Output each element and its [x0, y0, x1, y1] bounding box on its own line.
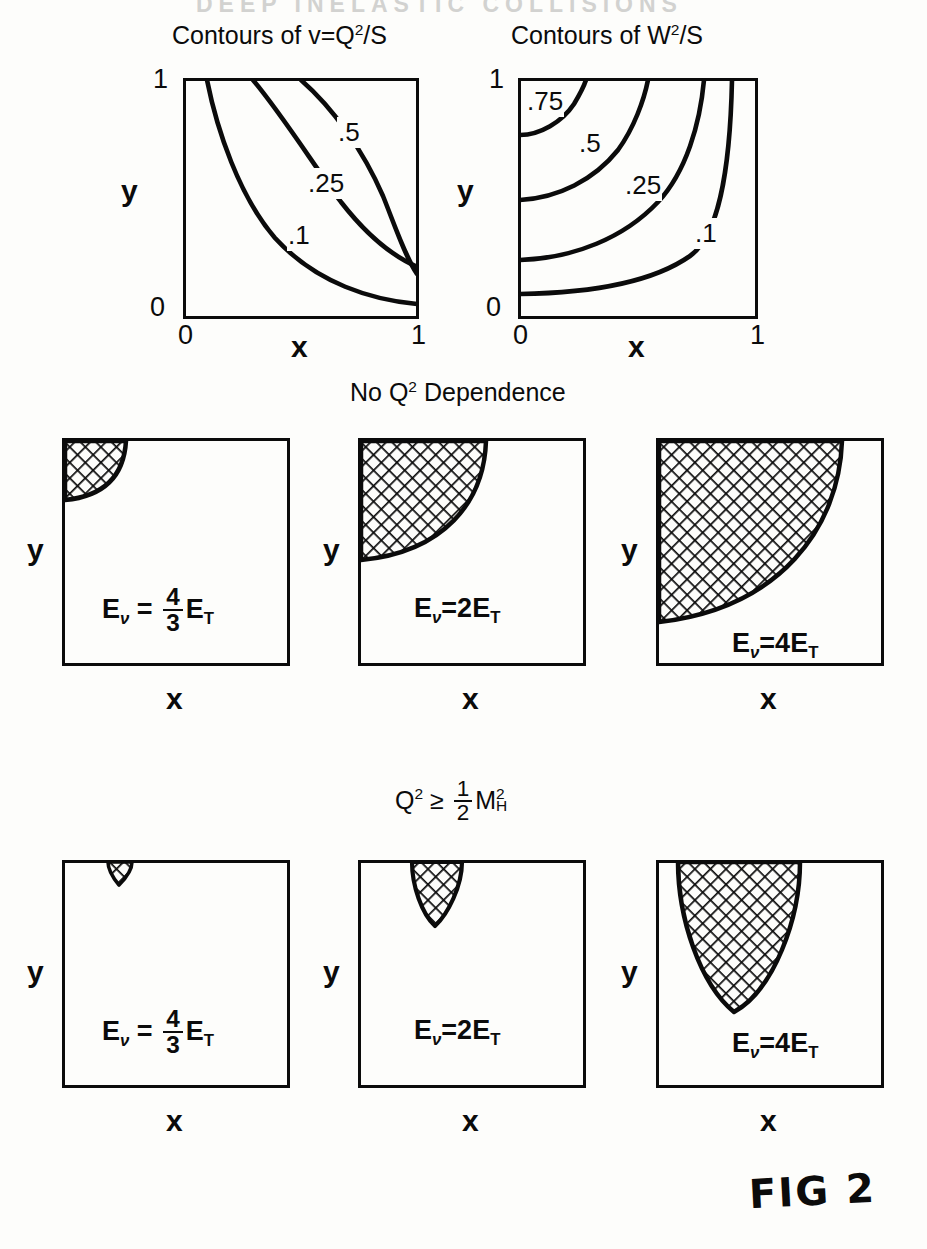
row3-header-relation: ≥ — [430, 786, 444, 814]
eq-ET: E — [472, 593, 490, 623]
y-tick-one-panel1: 1 — [153, 64, 168, 95]
eq-fraction: 43 — [163, 585, 183, 635]
eq-coef: 2 — [457, 593, 472, 623]
contour-label-w2s-0.25: .25 — [624, 170, 662, 201]
eq-fraction: 43 — [163, 1007, 183, 1057]
row3-header: Q2 ≥ 12M2H — [395, 779, 507, 825]
energy-equation-r3-c3: Eν=4ET — [732, 1028, 818, 1063]
panel-title-q2s-suffix: /S — [363, 21, 387, 49]
row3-header-fraction: 12 — [454, 778, 473, 824]
contour-label-w2s-0.5: .5 — [578, 128, 602, 159]
eq-T: T — [204, 1031, 214, 1050]
eq-T: T — [808, 643, 818, 662]
contour-plot-w2s: .75 .5 .25 .1 — [518, 78, 758, 319]
row2-header-sup: 2 — [408, 378, 417, 395]
contour-label-q2s-0.1: .1 — [287, 220, 311, 251]
eq-T: T — [490, 1030, 500, 1049]
panel-title-q2s-prefix: Contours of v=Q — [172, 21, 355, 49]
region-plot-r2-c3: Eν=4ET — [656, 438, 884, 666]
x-axis-label-r2-c2: x — [462, 682, 479, 716]
y-axis-label-panel2: y — [457, 174, 474, 208]
x-axis-label-r2-c1: x — [166, 682, 183, 716]
y-tick-zero-panel2: 0 — [486, 292, 501, 323]
eq-T: T — [808, 1043, 818, 1062]
contour-label-w2s-0.1: .1 — [694, 218, 718, 249]
eq-E: E — [732, 1028, 750, 1058]
row3-frac-den: 2 — [454, 802, 473, 824]
figure-caption-handwritten: FIG 2 — [748, 1165, 877, 1218]
x-tick-one-panel1: 1 — [411, 320, 426, 351]
page-title-partial: DEEP INELASTIC COLLISIONS — [196, 0, 683, 18]
y-axis-label-r2-c1: y — [27, 533, 44, 567]
eq-E: E — [102, 1016, 120, 1046]
x-tick-zero-panel2: 0 — [513, 320, 528, 351]
row2-header: No Q2 Dependence — [350, 378, 566, 407]
eq-nu: ν — [750, 643, 759, 662]
region-plot-r3-c3: Eν=4ET — [656, 860, 884, 1088]
y-axis-label-r2-c2: y — [323, 533, 340, 567]
row3-header-q: Q — [395, 786, 414, 814]
x-axis-label-panel1: x — [291, 330, 308, 364]
x-tick-zero-panel1: 0 — [178, 320, 193, 351]
energy-equation-r2-c3: Eν=4ET — [732, 628, 818, 663]
panel-title-w2s-prefix: Contours of W — [511, 21, 671, 49]
row3-header-q-sup: 2 — [414, 785, 423, 802]
shaded-region-r3-c2 — [358, 860, 586, 1088]
y-axis-label-r3-c3: y — [621, 955, 638, 989]
region-plot-r2-c2: Eν=2ET — [358, 438, 586, 666]
eq-equals: = — [759, 628, 775, 658]
x-axis-label-r2-c3: x — [760, 682, 777, 716]
contour-label-q2s-0.5: .5 — [337, 117, 361, 148]
panel-title-w2s-suffix: /S — [679, 21, 703, 49]
eq-E: E — [414, 593, 432, 623]
eq-ET: E — [790, 1028, 808, 1058]
panel-title-w2s: Contours of W2/S — [511, 21, 703, 50]
eq-nu: ν — [432, 608, 441, 627]
eq-E: E — [732, 628, 750, 658]
region-plot-r3-c1: Eν = 43ET — [62, 860, 290, 1088]
x-axis-label-r3-c2: x — [462, 1104, 479, 1138]
x-axis-label-panel2: x — [628, 330, 645, 364]
eq-equals: = — [137, 594, 153, 624]
row2-header-suffix: Dependence — [417, 378, 566, 406]
eq-E: E — [414, 1015, 432, 1045]
eq-nu: ν — [120, 609, 129, 628]
row3-header-m-sub: H — [496, 800, 507, 812]
contour-curves-q2s — [183, 78, 419, 319]
eq-equals: = — [441, 1015, 457, 1045]
eq-T: T — [490, 608, 500, 627]
eq-coef: 2 — [457, 1015, 472, 1045]
y-tick-one-panel2: 1 — [489, 64, 504, 95]
eq-frac-num: 4 — [163, 585, 183, 611]
y-axis-label-r3-c2: y — [323, 955, 340, 989]
region-plot-r2-c1: Eν = 43ET — [62, 438, 290, 666]
energy-equation-r2-c1: Eν = 43ET — [102, 586, 214, 636]
panel-title-q2s: Contours of v=Q2/S — [172, 21, 387, 50]
eq-equals: = — [441, 593, 457, 623]
contour-label-w2s-0.75: .75 — [526, 86, 564, 117]
row3-frac-num: 1 — [454, 778, 473, 802]
x-axis-label-r3-c1: x — [166, 1104, 183, 1138]
eq-E: E — [102, 594, 120, 624]
eq-equals: = — [137, 1016, 153, 1046]
contour-label-q2s-0.25: .25 — [307, 168, 345, 199]
y-axis-label-r2-c3: y — [621, 533, 638, 567]
eq-ET: E — [186, 1016, 204, 1046]
eq-nu: ν — [750, 1043, 759, 1062]
eq-nu: ν — [432, 1030, 441, 1049]
eq-frac-num: 4 — [163, 1007, 183, 1033]
shaded-region-r2-c2 — [358, 438, 586, 666]
eq-frac-den: 3 — [163, 611, 183, 635]
row2-header-prefix: No Q — [350, 378, 408, 406]
eq-ET: E — [472, 1015, 490, 1045]
eq-equals: = — [759, 1028, 775, 1058]
energy-equation-r3-c2: Eν=2ET — [414, 1015, 500, 1050]
contour-plot-q2s: .5 .25 .1 — [183, 78, 419, 319]
eq-T: T — [204, 609, 214, 628]
energy-equation-r2-c2: Eν=2ET — [414, 593, 500, 628]
energy-equation-r3-c1: Eν = 43ET — [102, 1008, 214, 1058]
eq-nu: ν — [120, 1031, 129, 1050]
y-axis-label-panel1: y — [121, 174, 138, 208]
y-tick-zero-panel1: 0 — [150, 292, 165, 323]
eq-ET: E — [186, 594, 204, 624]
